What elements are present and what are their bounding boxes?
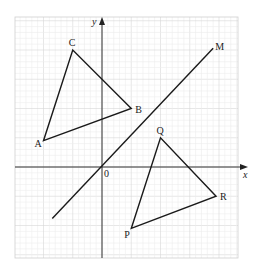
triangle-pqr: P Q R [124, 125, 227, 241]
triangle-pqr-shape [131, 138, 216, 229]
triangle-abc-shape [44, 50, 132, 141]
diagram-stage: x y 0 M A B C P Q R [0, 0, 260, 268]
vertex-label-c: C [69, 37, 76, 48]
vertex-label-p: P [124, 229, 130, 240]
x-axis-label: x [242, 169, 248, 180]
vertex-label-a: A [35, 138, 43, 149]
coordinate-plane: x y 0 M A B C P Q R [0, 0, 260, 268]
vertex-label-q: Q [157, 125, 165, 136]
vertex-label-r: R [220, 191, 227, 202]
origin-label: 0 [104, 168, 109, 179]
vertex-label-b: B [135, 104, 142, 115]
mirror-line-label: M [215, 41, 224, 52]
y-axis-label: y [91, 16, 97, 27]
mirror-line [52, 48, 213, 218]
grid [15, 17, 238, 258]
